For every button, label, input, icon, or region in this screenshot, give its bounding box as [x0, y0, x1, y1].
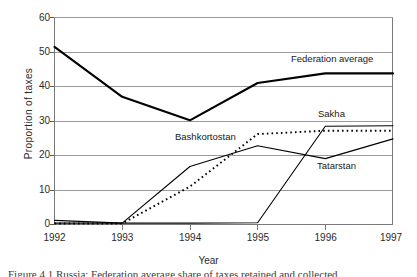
x-tick-1995: 1995	[228, 232, 288, 243]
figure-caption: Figure 4.1 Russia: Federation average sh…	[8, 268, 409, 277]
series-label-bashkortostan: Bashkortostan	[175, 131, 236, 142]
x-tick-1992: 1992	[25, 232, 85, 243]
series-label-tatarstan: Tatarstan	[317, 160, 356, 171]
x-tick-1996: 1996	[296, 232, 356, 243]
chart-figure: Proportion of taxes 60 50 40 30 20 10 0	[0, 0, 417, 277]
series-label-sakha: Sakha	[318, 108, 345, 119]
y-tick-marks	[50, 18, 54, 225]
series-line-bashkortostan	[55, 131, 394, 224]
x-tick-1993: 1993	[92, 232, 152, 243]
x-tick-1994: 1994	[160, 232, 220, 243]
x-tick-marks	[122, 225, 325, 231]
series-line-tatarstan	[55, 139, 394, 223]
x-axis-title: Year	[0, 255, 417, 266]
series-label-federation-average: Federation average	[291, 53, 373, 64]
x-axis-tick-labels: 1992 1993 1994 1995 1996 1997	[0, 232, 417, 248]
x-tick-1997: 1997	[361, 232, 417, 243]
